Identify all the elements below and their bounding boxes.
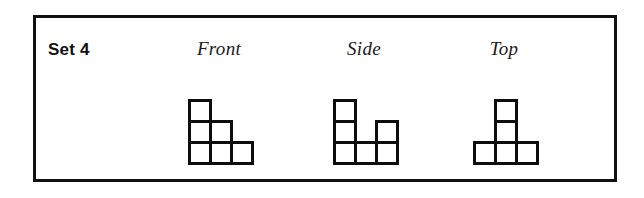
shape-grid-rows (188, 99, 251, 162)
shape-row (473, 120, 536, 141)
set-label: Set 4 (48, 40, 90, 60)
shape-top (429, 99, 579, 162)
shape-side (289, 99, 439, 162)
view-label-top: Top (429, 38, 579, 60)
view-column-top: Top (429, 18, 579, 179)
cube-cell (515, 141, 539, 165)
cube-cell (375, 141, 399, 165)
shape-row (188, 120, 251, 141)
view-column-front: Front (144, 18, 294, 179)
shape-row (333, 99, 396, 120)
shape-row (333, 120, 396, 141)
worksheet-panel: Set 4 Front Side Top (33, 15, 617, 182)
shape-grid-rows (473, 99, 536, 162)
view-label-front: Front (144, 38, 294, 60)
shape-row (188, 99, 251, 120)
view-label-side: Side (289, 38, 439, 60)
shape-row (188, 141, 251, 162)
view-column-side: Side (289, 18, 439, 179)
shape-front (144, 99, 294, 162)
shape-row (333, 141, 396, 162)
shape-row (473, 99, 536, 120)
cube-cell (230, 141, 254, 165)
shape-row (473, 141, 536, 162)
shape-grid-rows (333, 99, 396, 162)
